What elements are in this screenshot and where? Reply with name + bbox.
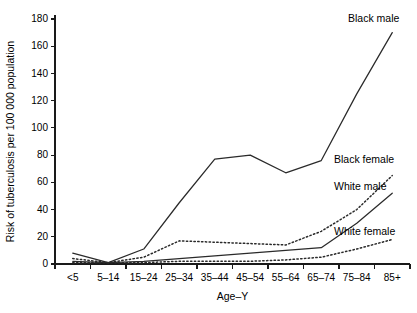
y-axis-tick-label: 120: [31, 95, 48, 106]
y-axis-tick-label: 80: [37, 149, 49, 160]
x-axis-tick-label: 75–84: [343, 272, 371, 283]
y-axis-tick-label: 0: [42, 258, 48, 269]
series-label-black-female: Black female: [334, 153, 394, 165]
x-axis-tick-label: 5–14: [97, 272, 120, 283]
y-axis-tick-label: 100: [31, 122, 48, 133]
x-axis-tick-label: <5: [67, 272, 79, 283]
y-axis-tick-label: 160: [31, 40, 48, 51]
y-axis-title: Risk of tuberculosis per 100 000 populat…: [4, 41, 16, 243]
chart-canvas: 020406080100120140160180<55–1415–2425–34…: [0, 0, 417, 313]
y-axis-tick-label: 20: [37, 231, 49, 242]
y-axis-tick-label: 180: [31, 13, 48, 24]
y-axis-tick-label: 60: [37, 176, 49, 187]
x-axis-tick-label: 85+: [384, 272, 401, 283]
series-label-black-male: Black male: [348, 12, 400, 24]
tuberculosis-risk-by-age-chart: 020406080100120140160180<55–1415–2425–34…: [0, 0, 417, 313]
x-axis-tick-label: 25–34: [165, 272, 193, 283]
x-axis-title: Age–Y: [217, 290, 249, 302]
x-axis-tick-label: 55–64: [272, 272, 300, 283]
y-axis-tick-label: 140: [31, 68, 48, 79]
series-label-white-male: White male: [334, 180, 387, 192]
x-axis-tick-label: 65–74: [307, 272, 335, 283]
series-label-white-female: White female: [334, 225, 395, 237]
y-axis-tick-label: 40: [37, 204, 49, 215]
x-axis-tick-label: 35–44: [201, 272, 229, 283]
x-axis-tick-label: 15–24: [130, 272, 158, 283]
x-axis-tick-label: 45–54: [236, 272, 264, 283]
